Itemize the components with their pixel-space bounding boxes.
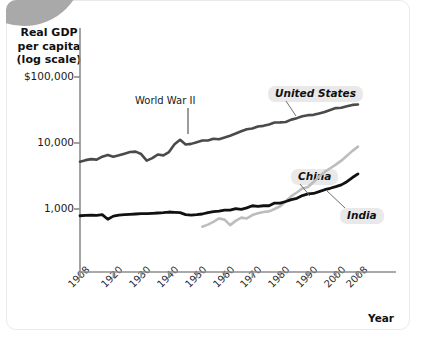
chart-figure: Real GDP per capita (log scale) Year Wor… [0,0,424,338]
x-ticks [80,272,358,278]
leader-line-united-states [286,101,296,116]
y-ticks [74,77,80,209]
leader-line-india [326,190,345,208]
axes-group [80,28,396,272]
plot-canvas [0,0,424,338]
series-line-united-states [80,104,358,161]
